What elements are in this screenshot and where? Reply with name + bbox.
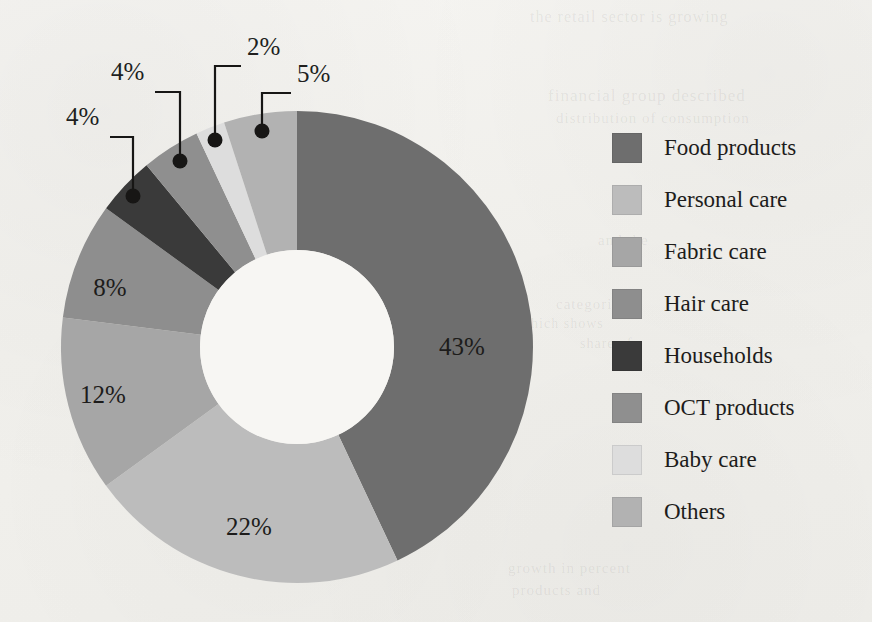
legend-item-label: OCT products <box>664 395 795 421</box>
slice-value-label: 22% <box>226 513 272 540</box>
slice-value-label: 8% <box>93 274 126 301</box>
legend-item-label: Personal care <box>664 187 787 213</box>
chart-page: the retail sector is growingfinancial gr… <box>0 0 872 622</box>
donut-chart[interactable]: 43%22%12%8% 4%4%2%5% <box>0 0 560 622</box>
legend-item-label: Fabric care <box>664 239 767 265</box>
legend-item[interactable]: Hair care <box>612 278 862 330</box>
callout-dot <box>208 133 223 148</box>
legend-item-label: Others <box>664 499 725 525</box>
legend-color-swatch <box>612 445 642 475</box>
callout-dot <box>255 124 270 139</box>
callout-dot <box>126 189 141 204</box>
legend-item-label: Food products <box>664 135 796 161</box>
callout-dot <box>173 154 188 169</box>
legend-item[interactable]: Fabric care <box>612 226 862 278</box>
legend-item[interactable]: OCT products <box>612 382 862 434</box>
ghost-text: financial group described <box>548 86 746 106</box>
legend-color-swatch <box>612 393 642 423</box>
callout-value-label: 5% <box>297 60 330 88</box>
legend-color-swatch <box>612 497 642 527</box>
legend-item-label: Baby care <box>664 447 757 473</box>
legend-item[interactable]: Personal care <box>612 174 862 226</box>
legend-color-swatch <box>612 133 642 163</box>
legend-color-swatch <box>612 341 642 371</box>
legend-item[interactable]: Baby care <box>612 434 862 486</box>
legend-item[interactable]: Food products <box>612 122 862 174</box>
legend-item[interactable]: Others <box>612 486 862 538</box>
callout-value-label: 2% <box>247 33 280 61</box>
legend-color-swatch <box>612 237 642 267</box>
donut-hole <box>200 250 394 444</box>
slice-value-label: 43% <box>439 333 485 360</box>
chart-legend: Food productsPersonal careFabric careHai… <box>612 122 862 538</box>
callout-value-label: 4% <box>111 58 144 86</box>
legend-item[interactable]: Households <box>612 330 862 382</box>
donut-chart-svg[interactable]: 43%22%12%8% <box>0 0 560 622</box>
legend-color-swatch <box>612 289 642 319</box>
callout-value-label: 4% <box>66 103 99 131</box>
legend-item-label: Hair care <box>664 291 749 317</box>
slice-value-label: 12% <box>80 381 126 408</box>
legend-item-label: Households <box>664 343 773 369</box>
legend-color-swatch <box>612 185 642 215</box>
